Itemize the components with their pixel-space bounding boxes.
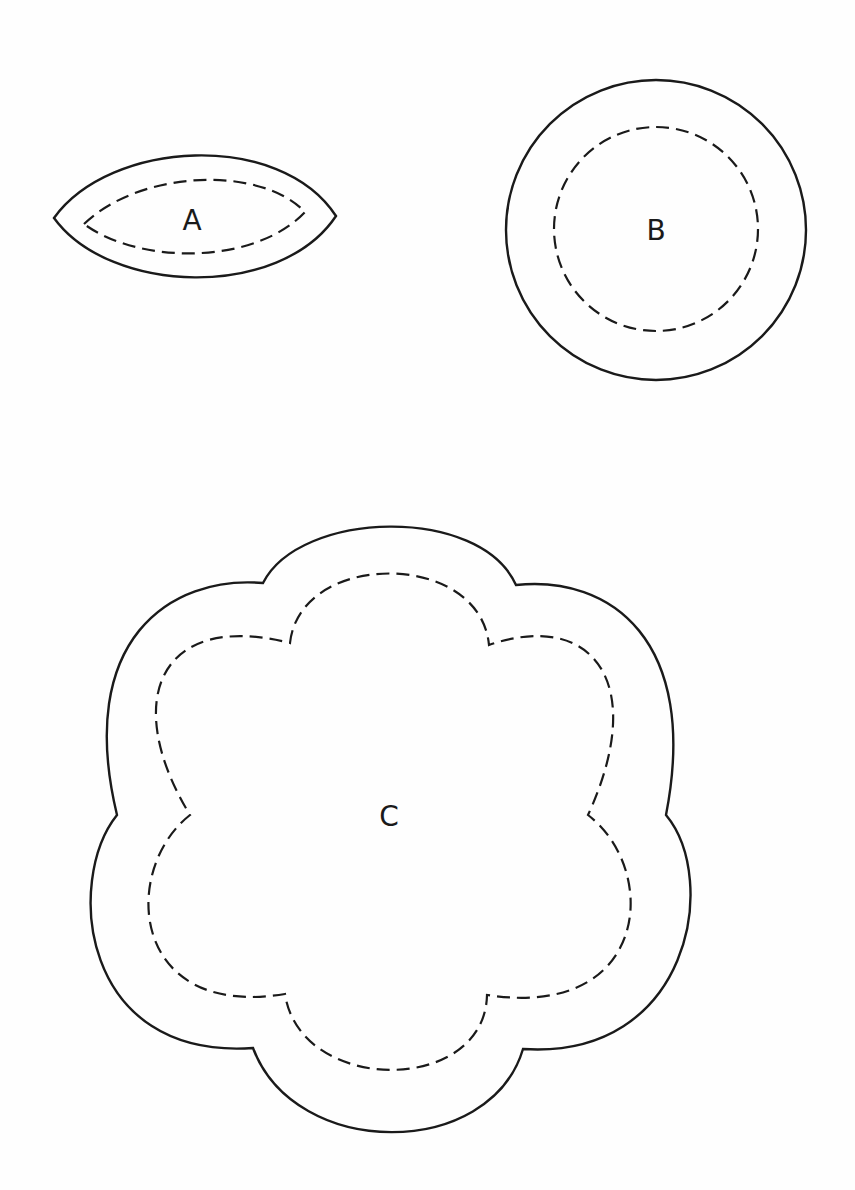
piece-b-label: B (646, 214, 665, 247)
pattern-drawing: A B C (0, 0, 855, 1190)
piece-a: A (54, 155, 336, 277)
piece-b: B (506, 80, 806, 380)
piece-c: C (91, 527, 691, 1133)
pattern-sheet: A B C (0, 0, 855, 1190)
piece-a-label: A (182, 204, 201, 237)
piece-c-label: C (379, 800, 399, 833)
